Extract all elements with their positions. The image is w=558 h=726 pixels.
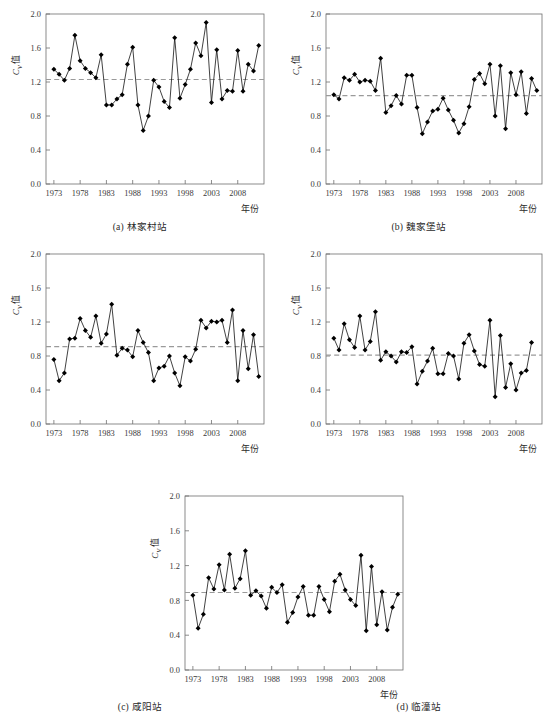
x-tick-label: 1988 bbox=[263, 675, 280, 684]
x-tick-label: 1998 bbox=[177, 429, 194, 438]
y-tick-label: 0.4 bbox=[31, 386, 42, 395]
y-axis-title: Cv值 bbox=[290, 55, 304, 76]
x-tick-label: 1973 bbox=[185, 675, 202, 684]
y-axis-title: Cv值 bbox=[149, 538, 163, 559]
x-tick-label: 1973 bbox=[325, 189, 342, 198]
figure-container: 0.00.40.81.21.62.01973197819831988199319… bbox=[0, 0, 558, 726]
chart-panel-b: 0.00.40.81.21.62.01973197819831988199319… bbox=[280, 0, 558, 240]
panel-caption-b: (b) 魏家堡站 bbox=[280, 219, 558, 233]
y-tick-label: 2.0 bbox=[311, 10, 321, 19]
y-tick-label: 1.2 bbox=[311, 318, 321, 327]
x-tick-label: 1988 bbox=[124, 429, 141, 438]
svg-text:值: 值 bbox=[10, 295, 21, 304]
x-axis-title: 年份 bbox=[519, 443, 537, 454]
x-tick-label: 1983 bbox=[237, 675, 254, 684]
plot-area-c: 0.00.40.81.21.62.01973197819831988199319… bbox=[0, 240, 280, 480]
x-tick-label: 1983 bbox=[377, 429, 394, 438]
x-tick-label: 1983 bbox=[98, 429, 115, 438]
chart-panel-e: 0.00.40.81.21.62.01973197819831988199319… bbox=[139, 482, 419, 726]
y-tick-label: 0.8 bbox=[311, 352, 321, 361]
y-axis-title: Cv值 bbox=[290, 295, 304, 316]
svg-text:值: 值 bbox=[290, 55, 301, 64]
plot-area-d: 0.00.40.81.21.62.01973197819831988199319… bbox=[280, 240, 558, 480]
plot-area-e: 0.00.40.81.21.62.01973197819831988199319… bbox=[139, 482, 419, 726]
y-tick-label: 0.0 bbox=[170, 666, 180, 675]
chart-svg-d: 0.00.40.81.21.62.01973197819831988199319… bbox=[280, 240, 558, 480]
chart-panel-a: 0.00.40.81.21.62.01973197819831988199319… bbox=[0, 0, 280, 240]
y-tick-label: 2.0 bbox=[31, 250, 41, 259]
x-tick-label: 1973 bbox=[46, 189, 63, 198]
svg-text:值: 值 bbox=[149, 538, 160, 547]
x-tick-label: 2003 bbox=[342, 675, 359, 684]
panel-caption-a: (a) 林家村站 bbox=[0, 219, 280, 233]
y-tick-label: 0.4 bbox=[311, 386, 322, 395]
y-tick-label: 0.0 bbox=[31, 180, 41, 189]
y-tick-label: 0.8 bbox=[170, 597, 180, 606]
svg-text:v: v bbox=[294, 305, 304, 309]
chart-svg-e: 0.00.40.81.21.62.01973197819831988199319… bbox=[139, 482, 419, 726]
x-tick-label: 1978 bbox=[72, 189, 89, 198]
x-tick-label: 2008 bbox=[229, 189, 246, 198]
y-tick-label: 0.4 bbox=[31, 146, 42, 155]
svg-text:v: v bbox=[294, 65, 304, 69]
y-axis-title: Cv值 bbox=[10, 55, 24, 76]
y-tick-label: 0.8 bbox=[311, 112, 321, 121]
x-tick-label: 2003 bbox=[482, 189, 499, 198]
svg-text:v: v bbox=[14, 305, 24, 309]
y-tick-label: 0.0 bbox=[311, 180, 321, 189]
chart-panel-d: 0.00.40.81.21.62.01973197819831988199319… bbox=[280, 240, 558, 480]
y-tick-label: 0.8 bbox=[31, 352, 41, 361]
plot-frame bbox=[326, 14, 542, 184]
y-tick-label: 1.2 bbox=[31, 318, 41, 327]
y-tick-label: 0.4 bbox=[311, 146, 322, 155]
svg-text:v: v bbox=[153, 548, 163, 552]
y-tick-label: 2.0 bbox=[311, 250, 321, 259]
x-tick-label: 2008 bbox=[508, 429, 525, 438]
x-tick-label: 1983 bbox=[377, 189, 394, 198]
x-tick-label: 2003 bbox=[203, 189, 220, 198]
x-tick-label: 1978 bbox=[351, 189, 368, 198]
y-tick-label: 1.2 bbox=[311, 78, 321, 87]
y-tick-label: 0.4 bbox=[170, 631, 181, 640]
x-tick-label: 1988 bbox=[124, 189, 141, 198]
y-tick-label: 1.6 bbox=[311, 284, 321, 293]
plot-area-a: 0.00.40.81.21.62.01973197819831988199319… bbox=[0, 0, 280, 240]
plot-frame bbox=[326, 254, 542, 424]
svg-text:值: 值 bbox=[10, 55, 21, 64]
y-tick-label: 2.0 bbox=[31, 10, 41, 19]
y-tick-label: 1.2 bbox=[170, 562, 180, 571]
plot-area-b: 0.00.40.81.21.62.01973197819831988199319… bbox=[280, 0, 558, 240]
x-tick-label: 1988 bbox=[404, 429, 421, 438]
x-tick-label: 1993 bbox=[430, 189, 447, 198]
x-tick-label: 1998 bbox=[456, 189, 473, 198]
x-tick-label: 2008 bbox=[229, 429, 246, 438]
x-axis-title: 年份 bbox=[241, 203, 259, 214]
x-tick-label: 1973 bbox=[46, 429, 63, 438]
x-axis-title: 年份 bbox=[241, 443, 259, 454]
y-axis-title: Cv值 bbox=[10, 295, 24, 316]
x-tick-label: 1978 bbox=[211, 675, 228, 684]
chart-panel-c: 0.00.40.81.21.62.01973197819831988199319… bbox=[0, 240, 280, 480]
x-tick-label: 1993 bbox=[290, 675, 307, 684]
y-tick-label: 1.6 bbox=[31, 44, 41, 53]
y-tick-label: 1.2 bbox=[31, 78, 41, 87]
x-tick-label: 2003 bbox=[482, 429, 499, 438]
x-tick-label: 1998 bbox=[316, 675, 333, 684]
x-tick-label: 1973 bbox=[325, 429, 342, 438]
y-tick-label: 0.0 bbox=[311, 420, 321, 429]
x-tick-label: 2008 bbox=[368, 675, 385, 684]
y-tick-label: 2.0 bbox=[170, 492, 180, 501]
x-tick-label: 1988 bbox=[404, 189, 421, 198]
x-tick-label: 1993 bbox=[430, 429, 447, 438]
x-tick-label: 1993 bbox=[151, 429, 168, 438]
chart-svg-c: 0.00.40.81.21.62.01973197819831988199319… bbox=[0, 240, 280, 480]
x-tick-label: 1998 bbox=[177, 189, 194, 198]
x-tick-label: 1978 bbox=[351, 429, 368, 438]
y-tick-label: 0.0 bbox=[31, 420, 41, 429]
x-tick-label: 1978 bbox=[72, 429, 89, 438]
x-tick-label: 1993 bbox=[151, 189, 168, 198]
x-axis-title: 年份 bbox=[380, 689, 398, 700]
plot-frame bbox=[46, 254, 264, 424]
y-tick-label: 1.6 bbox=[311, 44, 321, 53]
y-tick-label: 1.6 bbox=[31, 284, 41, 293]
